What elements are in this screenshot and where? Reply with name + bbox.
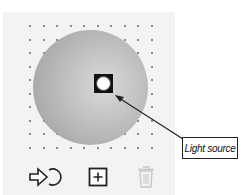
grid-dot [43,147,45,149]
grid-dot [137,25,139,27]
grid-dot [151,106,153,108]
grid-dot [151,39,153,41]
grid-dot [29,52,31,54]
arrow-into-circle-icon [28,166,62,188]
grid-dot [110,25,112,27]
trash-icon [137,165,155,189]
sphere-preview[interactable] [33,30,148,145]
grid-dot [43,25,45,27]
grid-dot [29,133,31,135]
light-source-bulb [97,77,110,90]
grid-dot [124,25,126,27]
callout-label: Light source [185,143,236,154]
grid-dot [151,25,153,27]
grid-dot [151,93,153,95]
grid-dot [83,147,85,149]
grid-dot [29,39,31,41]
grid-dot [137,147,139,149]
grid-dot [56,147,58,149]
grid-dot [151,147,153,149]
grid-dot [29,93,31,95]
grid-dot [151,66,153,68]
grid-dot [56,25,58,27]
grid-dot [151,79,153,81]
grid-dot [70,25,72,27]
plus-square-icon [88,167,108,187]
grid-dot [29,79,31,81]
grid-dot [29,120,31,122]
light-source-handle-icon[interactable] [94,74,113,93]
grid-dot [124,147,126,149]
grid-dot [83,25,85,27]
grid-dot [43,39,45,41]
grid-dot [29,25,31,27]
grid-dot [29,147,31,149]
light-source-callout: Light source [182,137,238,159]
grid-dot [43,133,45,135]
apply-light-button[interactable] [28,164,62,190]
light-toolbar [28,164,168,190]
grid-dot [137,39,139,41]
grid-dot [29,106,31,108]
grid-dot [110,147,112,149]
grid-dot [70,147,72,149]
delete-light-button[interactable] [134,164,158,190]
add-light-button[interactable] [86,164,110,190]
grid-dot [151,52,153,54]
grid-dot [137,133,139,135]
grid-dot [97,25,99,27]
grid-dot [151,133,153,135]
grid-dot [151,120,153,122]
grid-dot [29,66,31,68]
grid-dot [97,147,99,149]
